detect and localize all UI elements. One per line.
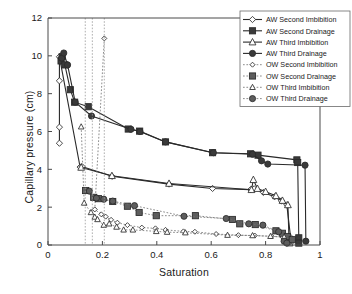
data-point	[162, 139, 168, 145]
legend-box	[240, 11, 350, 106]
chart-figure: 02468101200.20.40.60.81 AW Second Imbibi…	[0, 0, 352, 294]
y-tick-label: 6	[37, 126, 42, 137]
legend: AW Second ImbibitionAW Second DrainageAW…	[240, 11, 350, 106]
data-point	[303, 238, 309, 244]
data-point	[181, 213, 187, 219]
data-point	[81, 200, 87, 205]
data-point	[237, 221, 243, 227]
legend-marker	[249, 96, 255, 102]
data-point	[223, 215, 229, 221]
legend-marker	[249, 28, 255, 34]
legend-label: OW Second Imbibition	[266, 60, 338, 69]
data-point	[88, 113, 94, 119]
y-tick-label: 4	[37, 164, 42, 175]
data-point	[121, 227, 127, 232]
data-point	[137, 128, 143, 134]
legend-label: OW Third Drainage	[266, 94, 328, 103]
data-point	[128, 126, 134, 132]
legend-label: OW Third Imbibition	[266, 83, 329, 92]
data-point	[115, 220, 120, 225]
y-tick-label: 8	[37, 88, 42, 99]
data-point	[210, 150, 216, 156]
data-point	[61, 50, 67, 56]
legend-label: AW Second Imbibition	[266, 15, 336, 24]
legend-marker	[249, 50, 255, 56]
data-point	[110, 198, 116, 204]
data-point	[192, 213, 198, 219]
data-point	[114, 224, 120, 229]
data-point	[130, 227, 136, 232]
data-point	[258, 158, 264, 164]
data-point	[72, 99, 78, 105]
data-point	[260, 222, 266, 228]
x-tick-label: 0.6	[205, 249, 218, 260]
data-point	[93, 195, 99, 201]
legend-marker	[249, 73, 255, 79]
legend-label: AW Second Drainage	[266, 27, 335, 36]
data-point	[246, 221, 252, 227]
data-point	[64, 62, 70, 68]
data-point	[101, 196, 107, 202]
data-point	[56, 140, 62, 146]
x-tick-label: 0	[45, 249, 50, 260]
series-ow-third-drainage	[86, 188, 290, 246]
y-tick-label: 10	[31, 50, 42, 61]
data-point	[139, 225, 144, 230]
y-tick-label: 12	[31, 12, 42, 23]
legend-label: AW Third Imbibition	[266, 38, 328, 47]
x-tick-label: 0.8	[259, 249, 272, 260]
x-axis-label: Saturation	[48, 266, 320, 278]
data-point	[136, 209, 142, 215]
data-point	[250, 176, 257, 182]
data-point	[125, 223, 130, 228]
capillary-pressure-plot: 02468101200.20.40.60.81 AW Second Imbibi…	[0, 0, 352, 294]
data-point	[153, 213, 159, 219]
data-point	[78, 124, 84, 129]
data-point	[85, 104, 91, 110]
x-tick-label: 0.4	[150, 249, 163, 260]
series-ow-third-imbibition	[78, 124, 290, 245]
x-tick-label: 0.2	[96, 249, 109, 260]
legend-label: AW Third Drainage	[266, 49, 327, 58]
data-point	[249, 151, 255, 157]
data-point	[86, 188, 92, 194]
data-point	[56, 78, 62, 84]
data-point	[131, 203, 137, 209]
legend-label: OW Second Drainage	[266, 72, 336, 81]
data-point	[276, 229, 282, 235]
data-point	[302, 162, 308, 168]
y-axis-label: Capillary pressure (cm)	[23, 62, 35, 232]
x-tick-label: 1	[317, 249, 322, 260]
y-tick-label: 0	[37, 239, 42, 250]
data-point	[265, 161, 271, 167]
y-tick-label: 2	[37, 202, 42, 213]
data-point	[229, 216, 235, 222]
data-point	[56, 124, 62, 130]
